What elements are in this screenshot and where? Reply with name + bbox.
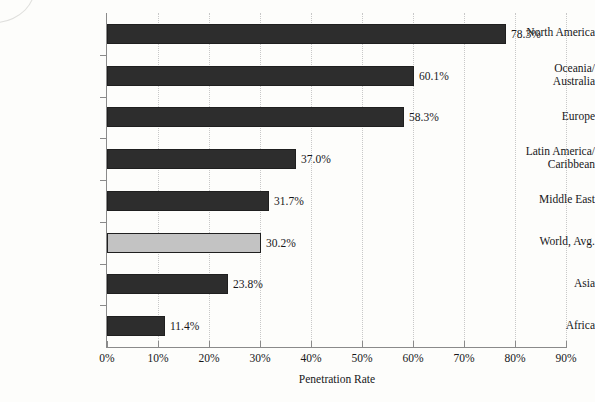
bar-value-label: 60.1% (419, 71, 449, 83)
x-axis-tick (515, 341, 516, 348)
category-label-line: Caribbean (496, 158, 595, 171)
category-label-line: North America (496, 26, 595, 39)
bar-value-label: 11.4% (170, 321, 199, 333)
x-axis-tick (464, 341, 465, 348)
x-axis-tick-label: 70% (440, 352, 488, 365)
x-axis-tick (566, 341, 567, 348)
category-label: Europe (496, 110, 595, 123)
x-axis-tick-label: 0% (83, 352, 131, 365)
x-axis-tick-label: 20% (185, 352, 233, 365)
y-axis-tick (100, 264, 107, 265)
x-axis-title: Penetration Rate (107, 373, 567, 385)
category-label-line: Latin America/ (496, 145, 595, 158)
y-axis-tick (100, 180, 107, 181)
category-label: Asia (496, 277, 595, 290)
category-label: North America (496, 26, 595, 39)
horizontal-bar-chart: 78.3%60.1%58.3%37.0%31.7%30.2%23.8%11.4%… (0, 0, 595, 402)
x-axis-tick-label: 80% (491, 352, 539, 365)
x-axis-tick-label: 10% (134, 352, 182, 365)
x-axis-tick-label: 40% (287, 352, 335, 365)
category-label-line: Africa (496, 319, 595, 332)
y-axis-tick (100, 55, 107, 56)
bar (107, 316, 165, 336)
x-axis-tick (260, 341, 261, 348)
gridline (311, 13, 312, 347)
x-axis-tick (413, 341, 414, 348)
category-label-line: Europe (496, 110, 595, 123)
x-axis-tick (362, 341, 363, 348)
gridline (362, 13, 363, 347)
bar (107, 66, 414, 86)
gridline (413, 13, 414, 347)
y-axis-tick (100, 222, 107, 223)
y-axis-tick (100, 97, 107, 98)
gridline (158, 13, 159, 347)
x-axis-tick (209, 341, 210, 348)
x-axis-tick (311, 341, 312, 348)
category-label-line: Asia (496, 277, 595, 290)
bar-value-label: 37.0% (301, 154, 331, 166)
category-label-line: Oceania/ (496, 62, 595, 75)
x-axis-tick-label: 50% (338, 352, 386, 365)
x-axis-tick (158, 341, 159, 348)
bar (107, 24, 506, 44)
category-label-line: Middle East (496, 193, 595, 206)
gridline (464, 13, 465, 347)
category-label: World, Avg. (496, 235, 595, 248)
x-axis-tick-label: 30% (236, 352, 284, 365)
gridline (209, 13, 210, 347)
category-label: Africa (496, 319, 595, 332)
x-axis-tick (107, 341, 108, 348)
bar (107, 274, 228, 294)
category-label-line: Australia (496, 75, 595, 88)
bar-value-label: 30.2% (266, 238, 296, 250)
bar (107, 233, 261, 253)
category-label-line: World, Avg. (496, 235, 595, 248)
y-axis-tick (100, 305, 107, 306)
x-axis-line (107, 347, 567, 348)
gridline (260, 13, 261, 347)
bar-value-label: 23.8% (233, 279, 263, 291)
y-axis-tick (100, 138, 107, 139)
x-axis-tick-label: 60% (389, 352, 437, 365)
bar-value-label: 58.3% (409, 112, 439, 124)
x-axis-tick-label: 90% (542, 352, 590, 365)
category-label: Latin America/Caribbean (496, 145, 595, 171)
bar (107, 191, 269, 211)
bar-value-label: 31.7% (274, 196, 304, 208)
category-label: Oceania/Australia (496, 62, 595, 88)
category-label: Middle East (496, 193, 595, 206)
bar (107, 107, 404, 127)
bar (107, 149, 296, 169)
